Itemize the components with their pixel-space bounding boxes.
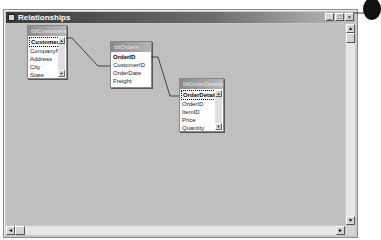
scroll-up-button[interactable]: ▲ [346,24,355,33]
scroll-down-button[interactable]: ▼ [215,123,222,130]
close-button[interactable]: × [345,13,354,21]
field-list-scrollbar[interactable]: ▲ ▼ [58,37,65,77]
table-title[interactable]: tblCustomers [28,26,66,36]
horizontal-scroll-thumb[interactable] [15,226,25,235]
field-item[interactable]: CompanyName [30,47,58,55]
vertical-scroll-thumb[interactable] [346,33,355,43]
scroll-down-button[interactable]: ▼ [58,70,65,77]
field-list[interactable]: OrderDetailID OrderID ItemID Price Quant… [180,89,223,131]
field-item[interactable]: CustomerID [113,61,149,69]
scroll-right-button[interactable]: ► [336,226,345,235]
table-tblorders[interactable]: tblOrders OrderID CustomerID OrderDate F… [110,41,152,88]
restore-button[interactable]: □ [335,13,344,21]
field-item[interactable]: OrderID [113,53,149,61]
field-item[interactable]: OrderDate [113,69,149,77]
scroll-up-button[interactable]: ▲ [215,90,222,97]
window-controls: _ □ × [325,13,354,21]
table-title[interactable]: tblOrders [111,42,151,52]
field-list[interactable]: CustomerID CompanyName Address City Stat… [28,36,66,78]
horizontal-scrollbar[interactable]: ◄ ► [6,226,345,235]
scroll-down-button[interactable]: ▼ [346,216,355,225]
field-item[interactable]: OrderDetailID [181,90,216,100]
minimize-button[interactable]: _ [325,13,334,21]
field-item[interactable]: Freight [113,77,149,85]
table-tblcustomers[interactable]: tblCustomers CustomerID CompanyName Addr… [27,25,67,79]
table-tblorderdetails[interactable]: tblOrderDetails OrderDetailID OrderID It… [179,78,224,132]
table-title[interactable]: tblOrderDetails [180,79,223,89]
size-grip[interactable] [346,226,355,235]
scroll-up-button[interactable]: ▲ [58,37,65,44]
vertical-scrollbar[interactable]: ▲ ▼ [346,24,355,225]
field-list[interactable]: OrderID CustomerID OrderDate Freight [111,52,151,87]
relationships-icon[interactable] [8,14,15,21]
title-bar[interactable]: Relationships _ □ × [6,12,355,23]
scroll-left-button[interactable]: ◄ [6,226,15,235]
callout-marker [363,0,381,20]
window-title: Relationships [18,12,70,23]
field-list-scrollbar[interactable]: ▲ ▼ [215,90,222,130]
